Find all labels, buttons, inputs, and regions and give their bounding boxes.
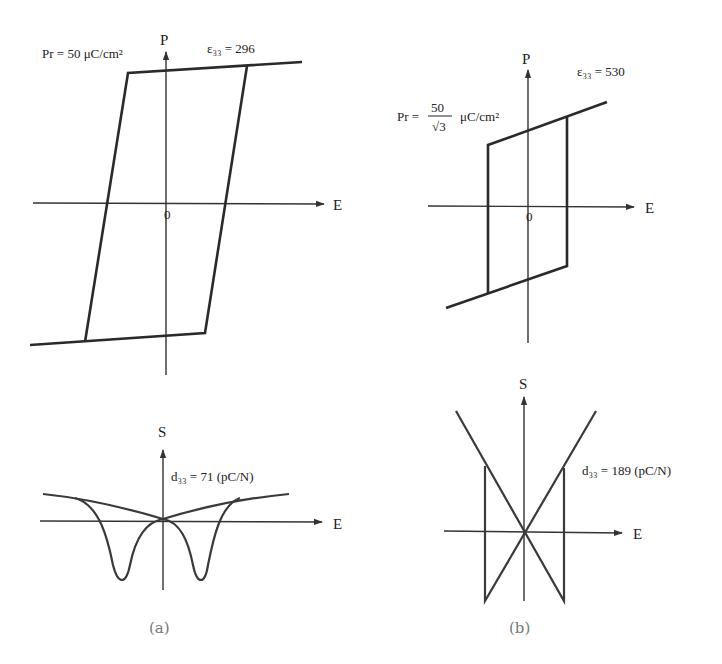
epsilon-label: ε₃₃ = 296	[207, 41, 255, 56]
e-axis-label: E	[333, 197, 342, 213]
p-axis-label: P	[522, 51, 530, 67]
hysteresis-lower-branch	[30, 66, 247, 345]
butterfly-ascending-branch	[485, 411, 596, 601]
e-axis-label: E	[633, 526, 642, 542]
s-axis-label: S	[519, 376, 527, 392]
origin-label: 0	[526, 209, 533, 224]
pr-label: Pr = 50 μC/cm²	[42, 46, 123, 61]
caption-a: (a)	[149, 619, 170, 637]
e-axis	[40, 521, 322, 522]
s-axis-label: S	[158, 424, 166, 440]
hysteresis-lower-branch	[446, 117, 567, 308]
e-axis	[444, 531, 622, 533]
pr-denominator: √3	[432, 119, 446, 134]
pr-unit: μC/cm²	[460, 109, 499, 124]
panel-a-strain-curve: S E d₃₃ = 71 (pC/N) (a)	[40, 424, 342, 637]
d33-label: d₃₃ = 189 (pC/N)	[582, 463, 671, 478]
origin-label: 0	[164, 207, 171, 222]
hysteresis-upper-branch	[85, 62, 302, 342]
pr-numerator: 50	[431, 100, 444, 115]
p-axis-label: P	[160, 32, 168, 48]
butterfly-right-dip	[163, 498, 240, 580]
panel-a-pe-loop: P E 0 Pr = 50 μC/cm² ε₃₃ = 296	[30, 32, 342, 375]
figure-canvas: P E 0 Pr = 50 μC/cm² ε₃₃ = 296 P E 0 Pr …	[0, 0, 722, 664]
e-axis-label: E	[645, 200, 654, 216]
d33-label: d₃₃ = 71 (pC/N)	[171, 469, 253, 484]
butterfly-outer-branches	[43, 494, 289, 519]
panel-b-pe-loop: P E 0 Pr = 50 √3 μC/cm² ε₃₃ = 530	[397, 51, 654, 343]
caption-b: (b)	[509, 619, 530, 637]
e-axis	[33, 203, 324, 204]
pr-prefix: Pr =	[397, 109, 419, 124]
e-axis-label: E	[333, 516, 342, 532]
butterfly-descending-branch	[456, 411, 564, 601]
butterfly-left-dip	[75, 498, 163, 580]
e-axis	[428, 206, 634, 207]
hysteresis-upper-branch	[488, 102, 607, 294]
panel-b-strain-curve: S E d₃₃ = 189 (pC/N) (b)	[444, 376, 671, 637]
epsilon-label: ε₃₃ = 530	[577, 64, 625, 79]
